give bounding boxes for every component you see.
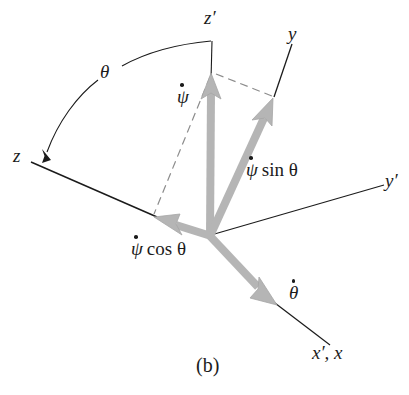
vector-label-psi-dot-cos-theta: ψcos θ <box>131 239 186 258</box>
vector-theta-dot-shaft <box>210 236 258 287</box>
axis-line-y <box>274 44 292 97</box>
axis-label-y-prime: y′ <box>385 171 398 190</box>
vector-label-psi-dot: ψ <box>177 87 189 106</box>
sin-theta-text: sin θ <box>262 159 298 180</box>
figure-container: z′ y z y′ x′, x θ ψ ψsin θ ψcos θ θ (b) <box>0 0 409 395</box>
figure-caption: (b) <box>196 355 219 375</box>
theta-arc-arrowhead <box>42 149 51 163</box>
vector-psi-dot-cos-theta <box>154 214 211 236</box>
vector-theta-dot <box>210 236 277 305</box>
axis-line-x-prime-x <box>271 300 330 345</box>
dashed-line-to-sin-component <box>216 74 272 96</box>
theta-arc-lower <box>47 80 98 152</box>
psi-dot-symbol: ψ <box>177 87 189 106</box>
vector-arrows <box>154 73 277 305</box>
axis-label-z-prime: z′ <box>204 8 216 27</box>
axis-label-y: y <box>288 24 296 43</box>
theta-dot-symbol: θ <box>289 283 298 302</box>
vector-psi-dot-shaft <box>210 92 211 236</box>
vector-diagram-svg <box>0 0 409 395</box>
angle-label-theta: θ <box>100 62 109 81</box>
psi-dot-symbol: ψ <box>131 239 143 258</box>
axis-label-x-prime-x: x′, x <box>312 343 343 362</box>
axis-line-z <box>31 162 157 217</box>
psi-dot-symbol: ψ <box>246 160 258 179</box>
theta-arc-upper <box>122 41 211 66</box>
cos-theta-text: cos θ <box>147 238 186 259</box>
axis-line-y-prime <box>211 185 384 235</box>
vector-label-theta-dot: θ <box>289 283 298 302</box>
axis-label-z: z <box>13 146 20 165</box>
vector-label-psi-dot-sin-theta: ψsin θ <box>246 160 298 179</box>
